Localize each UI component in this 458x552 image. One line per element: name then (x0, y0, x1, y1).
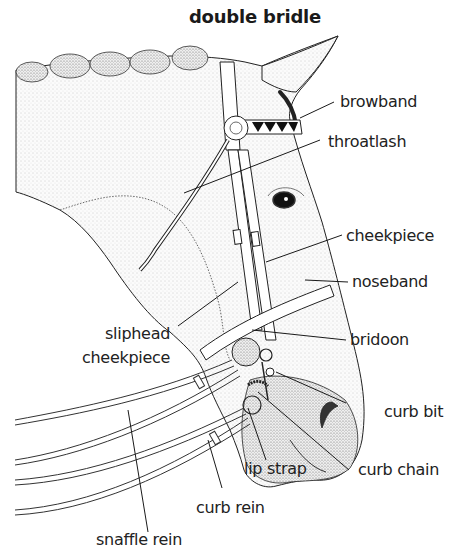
ear (262, 36, 338, 92)
label-sliphead-line1: sliphead (70, 324, 170, 344)
label-lip-strap: lip strap (244, 459, 307, 479)
label-noseband: noseband (352, 272, 428, 292)
label-cheekpiece: cheekpiece (346, 226, 434, 246)
label-bridoon: bridoon (350, 330, 409, 350)
label-sliphead-line2: cheekpiece (70, 348, 170, 368)
label-curb-rein: curb rein (196, 498, 265, 518)
eye (273, 192, 295, 208)
rosette (224, 116, 248, 140)
horse-head (16, 36, 364, 487)
label-curb-bit: curb bit (384, 402, 443, 422)
label-throatlash: throatlash (328, 132, 406, 152)
label-browband: browband (340, 92, 417, 112)
label-snaffle-rein: snaffle rein (96, 530, 182, 550)
label-curb-chain: curb chain (358, 460, 439, 480)
